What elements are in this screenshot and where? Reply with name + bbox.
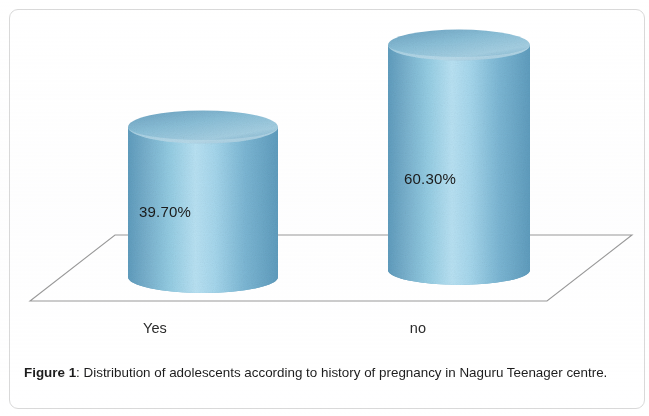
figure-caption-text: Distribution of adolescents according to… xyxy=(84,365,608,380)
category-label-no: no xyxy=(368,320,468,336)
chart-plot-area: 39.70% 60.30% Yes no xyxy=(0,0,649,352)
data-label-no: 60.30% xyxy=(404,170,456,187)
figure-container: 39.70% 60.30% Yes no Figure 1: Distribut… xyxy=(0,0,649,416)
figure-caption: Figure 1: Distribution of adolescents ac… xyxy=(24,363,626,383)
category-label-yes: Yes xyxy=(105,320,205,336)
floor-plane xyxy=(30,235,632,301)
bar-cylinder-yes xyxy=(128,111,278,294)
bar-cylinder-no xyxy=(388,30,530,286)
cylinder-chart-svg xyxy=(0,0,649,352)
figure-caption-label: Figure 1 xyxy=(24,365,76,380)
data-label-yes: 39.70% xyxy=(139,203,191,220)
figure-caption-separator: : xyxy=(76,365,83,380)
